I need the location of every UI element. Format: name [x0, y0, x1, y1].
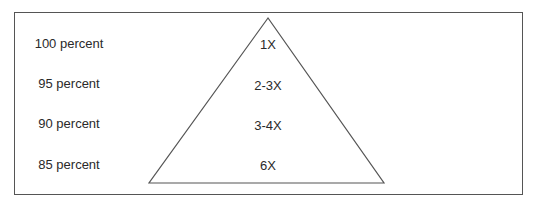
percent-label-2: 95 percent	[14, 76, 124, 91]
percent-label-1: 100 percent	[14, 36, 124, 51]
multiplier-label-2: 2-3X	[228, 78, 308, 93]
multiplier-label-1: 1X	[228, 37, 308, 52]
percent-label-3: 90 percent	[14, 116, 124, 131]
pyramid-triangle	[0, 0, 536, 208]
multiplier-label-3: 3-4X	[228, 118, 308, 133]
percent-label-4: 85 percent	[14, 157, 124, 172]
multiplier-label-4: 6X	[228, 158, 308, 173]
